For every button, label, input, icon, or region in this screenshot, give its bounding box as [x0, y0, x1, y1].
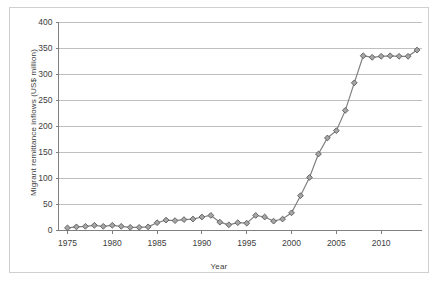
data-point [387, 53, 393, 59]
x-tick-label: 1980 [92, 238, 132, 248]
data-point [262, 214, 268, 220]
x-tick-label: 1995 [227, 238, 267, 248]
data-point [396, 53, 402, 59]
x-tick-label: 2000 [272, 238, 312, 248]
data-point [226, 222, 232, 228]
data-point [181, 217, 187, 223]
y-tick-label: 350 [13, 43, 53, 53]
data-point [369, 54, 375, 60]
data-point [271, 218, 277, 224]
y-tick-label: 0 [13, 225, 53, 235]
data-point [127, 224, 133, 230]
data-point [172, 218, 178, 224]
gridlines [59, 23, 422, 231]
x-tick-label: 1975 [47, 238, 87, 248]
data-point [342, 107, 348, 113]
x-tick-label: 1985 [137, 238, 177, 248]
data-point [65, 225, 71, 231]
axis-lines [56, 23, 422, 234]
y-tick-label: 50 [13, 199, 53, 209]
data-line [67, 50, 417, 228]
x-axis-title: Year [0, 262, 438, 271]
data-point [100, 223, 106, 229]
chart-figure: Migrant remittance inflows (US$ million)… [0, 0, 438, 288]
y-tick-label: 200 [13, 121, 53, 131]
data-point [118, 223, 124, 229]
data-point [235, 220, 241, 226]
data-point [360, 53, 366, 59]
data-point [307, 175, 313, 181]
data-point [82, 223, 88, 229]
x-tick-label: 1990 [182, 238, 222, 248]
data-point [351, 80, 357, 86]
y-tick-label: 400 [13, 17, 53, 27]
data-point [199, 214, 205, 220]
y-tick-label: 100 [13, 173, 53, 183]
data-point [190, 216, 196, 222]
data-point [74, 224, 80, 230]
x-tick-label: 2010 [361, 238, 401, 248]
data-point [163, 217, 169, 223]
data-point [109, 222, 115, 228]
data-point [154, 220, 160, 226]
data-point [91, 222, 97, 228]
y-tick-label: 150 [13, 147, 53, 157]
data-point [145, 224, 151, 230]
data-point [136, 224, 142, 230]
y-tick-label: 300 [13, 69, 53, 79]
y-tick-label: 250 [13, 95, 53, 105]
data-point [298, 193, 304, 199]
x-tick-label: 2005 [316, 238, 356, 248]
data-point [378, 53, 384, 59]
